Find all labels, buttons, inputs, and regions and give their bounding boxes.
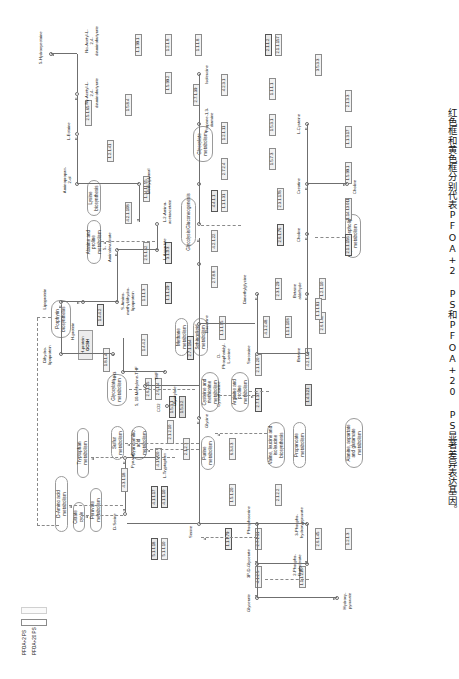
ec-box[interactable]: 4.1.2.48	[263, 316, 270, 338]
ec-box[interactable]: 1.4.4.2	[97, 304, 104, 326]
ec-box[interactable]: 1.2.1.8	[165, 34, 172, 56]
ec-box[interactable]: 1.1.1.1	[269, 78, 276, 100]
map-node-tryptophan[interactable]: Tryptophan metabolism	[77, 428, 89, 478]
ec-box[interactable]: 5.1.1.10	[161, 538, 168, 560]
compound-node[interactable]	[123, 512, 127, 516]
compound-label: L-Cysteine	[297, 114, 302, 134]
ec-box[interactable]: 1.1.1.103	[285, 316, 292, 338]
figure-root: PFOA+2 PS PFOA+20 PS D-Amino acid metabo…	[0, 0, 459, 679]
map-node-methane[interactable]: Methane metabolism	[175, 318, 188, 356]
legend: PFOA+2 PS PFOA+20 PS	[15, 578, 51, 656]
ec-box[interactable]: 2.1.1.20	[255, 354, 262, 376]
ec-box[interactable]: 2.7.1.164	[187, 336, 194, 360]
ec-box[interactable]: 1.1.1.95	[219, 316, 226, 340]
ec-box[interactable]: 4.1.1.10	[161, 486, 168, 508]
compound-node[interactable]	[165, 404, 169, 408]
arrowhead	[147, 450, 150, 452]
ec-box[interactable]: 2.6.1.52	[143, 242, 150, 264]
compound-label: Choline	[353, 180, 358, 194]
ec-box[interactable]: 2.1.3.3	[345, 90, 352, 112]
ec-box[interactable]: 1.8.1.4	[103, 348, 110, 372]
ec-box[interactable]: 2.7.2.4	[221, 158, 228, 180]
compound-label: O-Phosphatidyl-L-serine	[217, 342, 231, 370]
ec-box[interactable]: 4.4.1.1	[211, 190, 218, 212]
map-node-lysine-biosynthesis[interactable]: Lysine biosynthesis	[87, 180, 101, 216]
ec-box[interactable]: 1.5.7.3	[269, 148, 276, 170]
ec-box[interactable]: 2.1.1.156	[345, 234, 352, 256]
ec-box[interactable]: 2.6.1.76	[277, 224, 284, 246]
ec-box[interactable]: 1.2.1.10	[319, 278, 326, 300]
ec-box[interactable]: 1.2.1.3	[345, 528, 352, 550]
ec-box[interactable]: 1.1.1.3	[141, 284, 148, 306]
map-node-pyruvate[interactable]: Pyruvate metabolism	[90, 488, 102, 532]
ec-box[interactable]: 2.3.1.29	[275, 278, 282, 300]
map-node-sulfur[interactable]: Sulfur metabolism	[111, 426, 124, 460]
arrowhead	[59, 305, 61, 308]
gene-box-gcsh[interactable]: H-protein GCSH	[78, 330, 93, 360]
map-node-valine-leucine-isoleucine[interactable]: Valine, leucine and isoleucine biosynthe…	[267, 422, 285, 468]
ec-box[interactable]: 4.2.1.108	[125, 202, 132, 224]
edge	[157, 226, 158, 250]
ec-box[interactable]: 1.1.1.31	[221, 190, 228, 212]
edge	[257, 524, 258, 564]
compound-label: Threonine	[205, 315, 210, 334]
edge	[257, 523, 307, 524]
map-node-alanine-proline[interactable]: Alanine and proline metabolism	[87, 220, 101, 264]
ec-box[interactable]: 2.3.1.178	[277, 188, 284, 210]
legend-label-pfoa20: PFOA+20 PS	[32, 627, 37, 655]
edge	[307, 183, 347, 184]
compound-label: Isoleucine	[205, 65, 210, 84]
compound-label: L-2-Amino-acetoacetate	[163, 198, 173, 226]
edge	[199, 523, 257, 524]
ec-box[interactable]: 1.5.99.1	[345, 162, 352, 184]
map-node-glycolysis[interactable]: Glycolysis/Gluconeogenesis	[181, 198, 196, 246]
ec-box[interactable]: 1.5.99.2	[165, 72, 172, 94]
ec-box[interactable]: 4.2.3.1	[221, 74, 228, 96]
ec-box[interactable]: 1.4.4.2	[141, 334, 148, 356]
ec-box[interactable]: 4.1.1.17	[151, 486, 158, 508]
ec-box[interactable]: 1.1.1.29	[165, 282, 172, 304]
compound-label: Sarcosine	[247, 345, 252, 364]
legend-label-pfoa2: PFOA+2 PS	[22, 630, 27, 655]
ec-box[interactable]: 1.2.1.11	[221, 122, 228, 144]
ec-box[interactable]: 5.1.1.18	[151, 538, 158, 560]
map-node-purine[interactable]: Purine metabolism	[201, 436, 215, 470]
arrowhead	[91, 458, 94, 460]
ec-box[interactable]: 1.5.3.2	[179, 396, 186, 418]
ec-box[interactable]: 2.1.1.2	[265, 34, 272, 56]
map-node-arginine-proline[interactable]: Arginine and proline metabolism	[231, 372, 249, 412]
compound-label: Dihydro-lipoprotein	[43, 342, 53, 368]
ec-box[interactable]: 4.2.1.22	[211, 230, 218, 252]
ec-box[interactable]: 4.1.2.5	[255, 566, 262, 588]
ec-box[interactable]: 1.1.1.81	[315, 298, 322, 320]
map-node-propanoate[interactable]: Propanoate metabolism	[293, 422, 306, 468]
ec-box[interactable]: 1.1.1.8	[195, 34, 202, 56]
ec-box[interactable]: 2.1.1.157	[275, 34, 282, 56]
ec-box[interactable]: 1.2.1.41	[107, 140, 114, 162]
ec-box[interactable]: 1.1.3.17	[345, 126, 352, 148]
ec-box[interactable]: 4.3.1.18	[121, 468, 128, 492]
map-node-citrate-cycle[interactable]: Citrate cycle	[73, 502, 85, 532]
ec-box[interactable]: 1.5.1.20	[229, 484, 236, 506]
arrowhead	[305, 297, 307, 300]
ec-box[interactable]: 1.1.99.1	[135, 34, 142, 56]
ec-box[interactable]: 1.1.1.79	[225, 528, 232, 550]
ec-box[interactable]: 1.4.3.21	[305, 384, 312, 406]
compound-label: Glycine	[205, 414, 210, 428]
ec-box[interactable]: 2.1.2.10	[167, 420, 174, 444]
arrowhead	[127, 444, 130, 446]
edge-dashed	[145, 449, 199, 450]
compound-label: 3-Phospho-hydroxypyruvate	[295, 512, 305, 538]
ec-box[interactable]: 2.7.1.31	[255, 528, 262, 550]
ec-box[interactable]: 2.7.8.8	[211, 266, 218, 288]
map-node-d-amino-acid[interactable]: D-Amino acid metabolism	[55, 476, 68, 532]
ec-box[interactable]: 1.5.3.1	[269, 114, 276, 136]
ec-box[interactable]: 6.3.4.3	[229, 438, 236, 460]
compound-label: Phosphoserine	[247, 506, 252, 534]
ec-box[interactable]: 1.5.8.4	[125, 94, 132, 116]
map-node-alanine-aspartate-glutamate[interactable]: Alanine, aspartate and glutamate metabol…	[345, 418, 363, 468]
ec-box[interactable]: 3.5.3.3	[315, 54, 322, 76]
ec-box[interactable]: 1.14.13.011	[345, 198, 352, 220]
ec-box[interactable]: 2.1.2.2	[275, 484, 282, 506]
ec-box[interactable]: 2.6.1.45	[315, 528, 322, 550]
